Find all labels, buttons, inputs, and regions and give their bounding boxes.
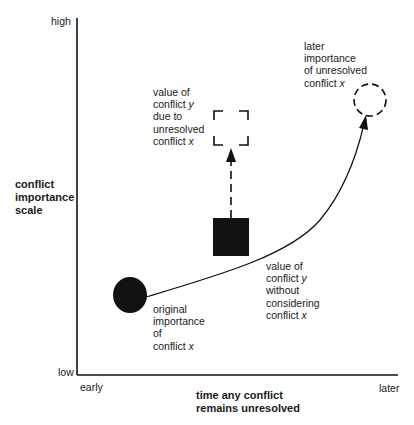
x-axis-title: time any conflict remains unresolved [196,389,300,415]
later-importance-label: later importance of unresolved conflict … [304,40,367,89]
original-importance-circle [113,277,147,313]
value-due-to-label: value of conflict y due to unresolved co… [153,86,204,147]
growth-curve [146,124,364,297]
x-axis-later-label: later [379,382,399,394]
curve-arrowhead-icon [359,115,368,130]
value-without-square [213,218,249,256]
x-axis-early-label: early [80,381,103,393]
y-axis-low-label: low [58,366,74,378]
original-importance-label: original importance of conflict x [153,303,205,352]
y-axis-high-label: high [51,15,71,27]
y-axis-title: conflict importance scale [15,178,74,217]
dashed-arrow-head-icon [226,148,236,162]
value-due-to-dashed-square [214,111,248,145]
value-without-label: value of conflict y without considering … [266,260,320,321]
